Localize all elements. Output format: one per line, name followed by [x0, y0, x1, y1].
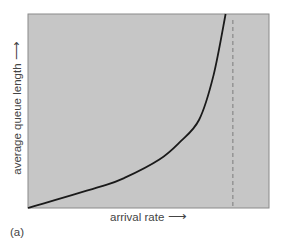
queue-length-chart: average queue length ⟶ arrival rate ⟶ (a… — [0, 0, 281, 246]
up-arrow-icon: ⟶ — [9, 41, 24, 60]
y-axis-label-text: average queue length — [11, 63, 23, 174]
panel-label: (a) — [10, 226, 24, 238]
x-axis-label-text: arrival rate — [110, 211, 164, 223]
x-axis-label: arrival rate ⟶ — [110, 209, 187, 224]
right-arrow-icon: ⟶ — [168, 209, 187, 224]
y-axis-label: average queue length ⟶ — [9, 18, 23, 198]
